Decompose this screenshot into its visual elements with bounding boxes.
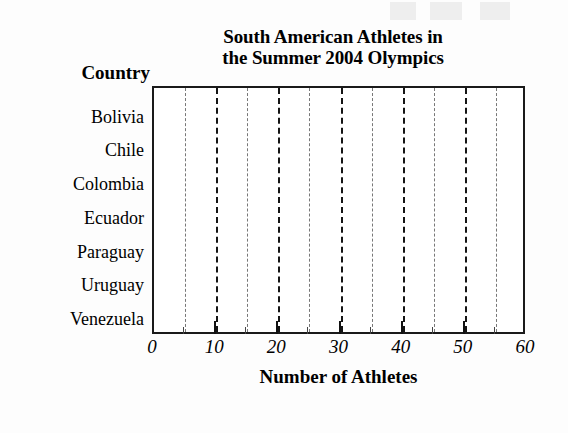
x-tick-minor <box>183 327 184 334</box>
x-tick-minor <box>432 327 433 334</box>
category-label: Chile <box>0 141 144 159</box>
x-tick-major <box>276 321 278 334</box>
minor-gridline <box>434 88 435 332</box>
x-tick-major <box>339 321 341 334</box>
minor-gridline <box>185 88 186 332</box>
x-tick-label: 50 <box>441 337 485 357</box>
minor-gridline <box>247 88 248 332</box>
x-tick-minor <box>494 327 495 334</box>
category-label: Colombia <box>0 175 144 193</box>
chart-title-line-1: South American Athletes in <box>168 26 498 47</box>
scan-artifact <box>390 2 560 20</box>
x-tick-label: 30 <box>317 337 361 357</box>
major-gridline <box>278 88 280 332</box>
x-axis-tick-labels: 0102030405060 <box>152 337 525 363</box>
category-label-list: BoliviaChileColombiaEcuadorParaguayUrugu… <box>0 86 148 334</box>
x-tick-label: 60 <box>503 337 547 357</box>
major-gridline <box>216 88 218 332</box>
x-tick-major <box>463 321 465 334</box>
category-label: Venezuela <box>0 310 144 328</box>
x-tick-major <box>214 321 216 334</box>
major-gridline <box>403 88 405 332</box>
x-axis-title: Number of Athletes <box>152 366 525 388</box>
chart-page: South American Athletes in the Summer 20… <box>0 0 568 433</box>
x-axis-tick-marks <box>152 320 525 334</box>
plot-inner <box>154 88 523 332</box>
x-tick-label: 40 <box>379 337 423 357</box>
major-gridline <box>465 88 467 332</box>
minor-gridline <box>309 88 310 332</box>
x-tick-label: 0 <box>130 337 174 357</box>
minor-gridline <box>372 88 373 332</box>
bars-layer <box>154 88 523 332</box>
x-tick-minor <box>370 327 371 334</box>
chart-title: South American Athletes in the Summer 20… <box>168 26 498 69</box>
category-label: Bolivia <box>0 108 144 126</box>
major-gridline <box>341 88 343 332</box>
plot-area <box>152 86 525 334</box>
x-tick-label: 10 <box>192 337 236 357</box>
category-label: Uruguay <box>0 276 144 294</box>
x-tick-minor <box>245 327 246 334</box>
minor-gridline <box>496 88 497 332</box>
category-label: Ecuador <box>0 209 144 227</box>
x-tick-minor <box>307 327 308 334</box>
chart-title-line-2: the Summer 2004 Olympics <box>168 47 498 68</box>
category-axis-title: Country <box>81 62 150 84</box>
x-tick-label: 20 <box>254 337 298 357</box>
category-label: Paraguay <box>0 243 144 261</box>
x-tick-major <box>401 321 403 334</box>
